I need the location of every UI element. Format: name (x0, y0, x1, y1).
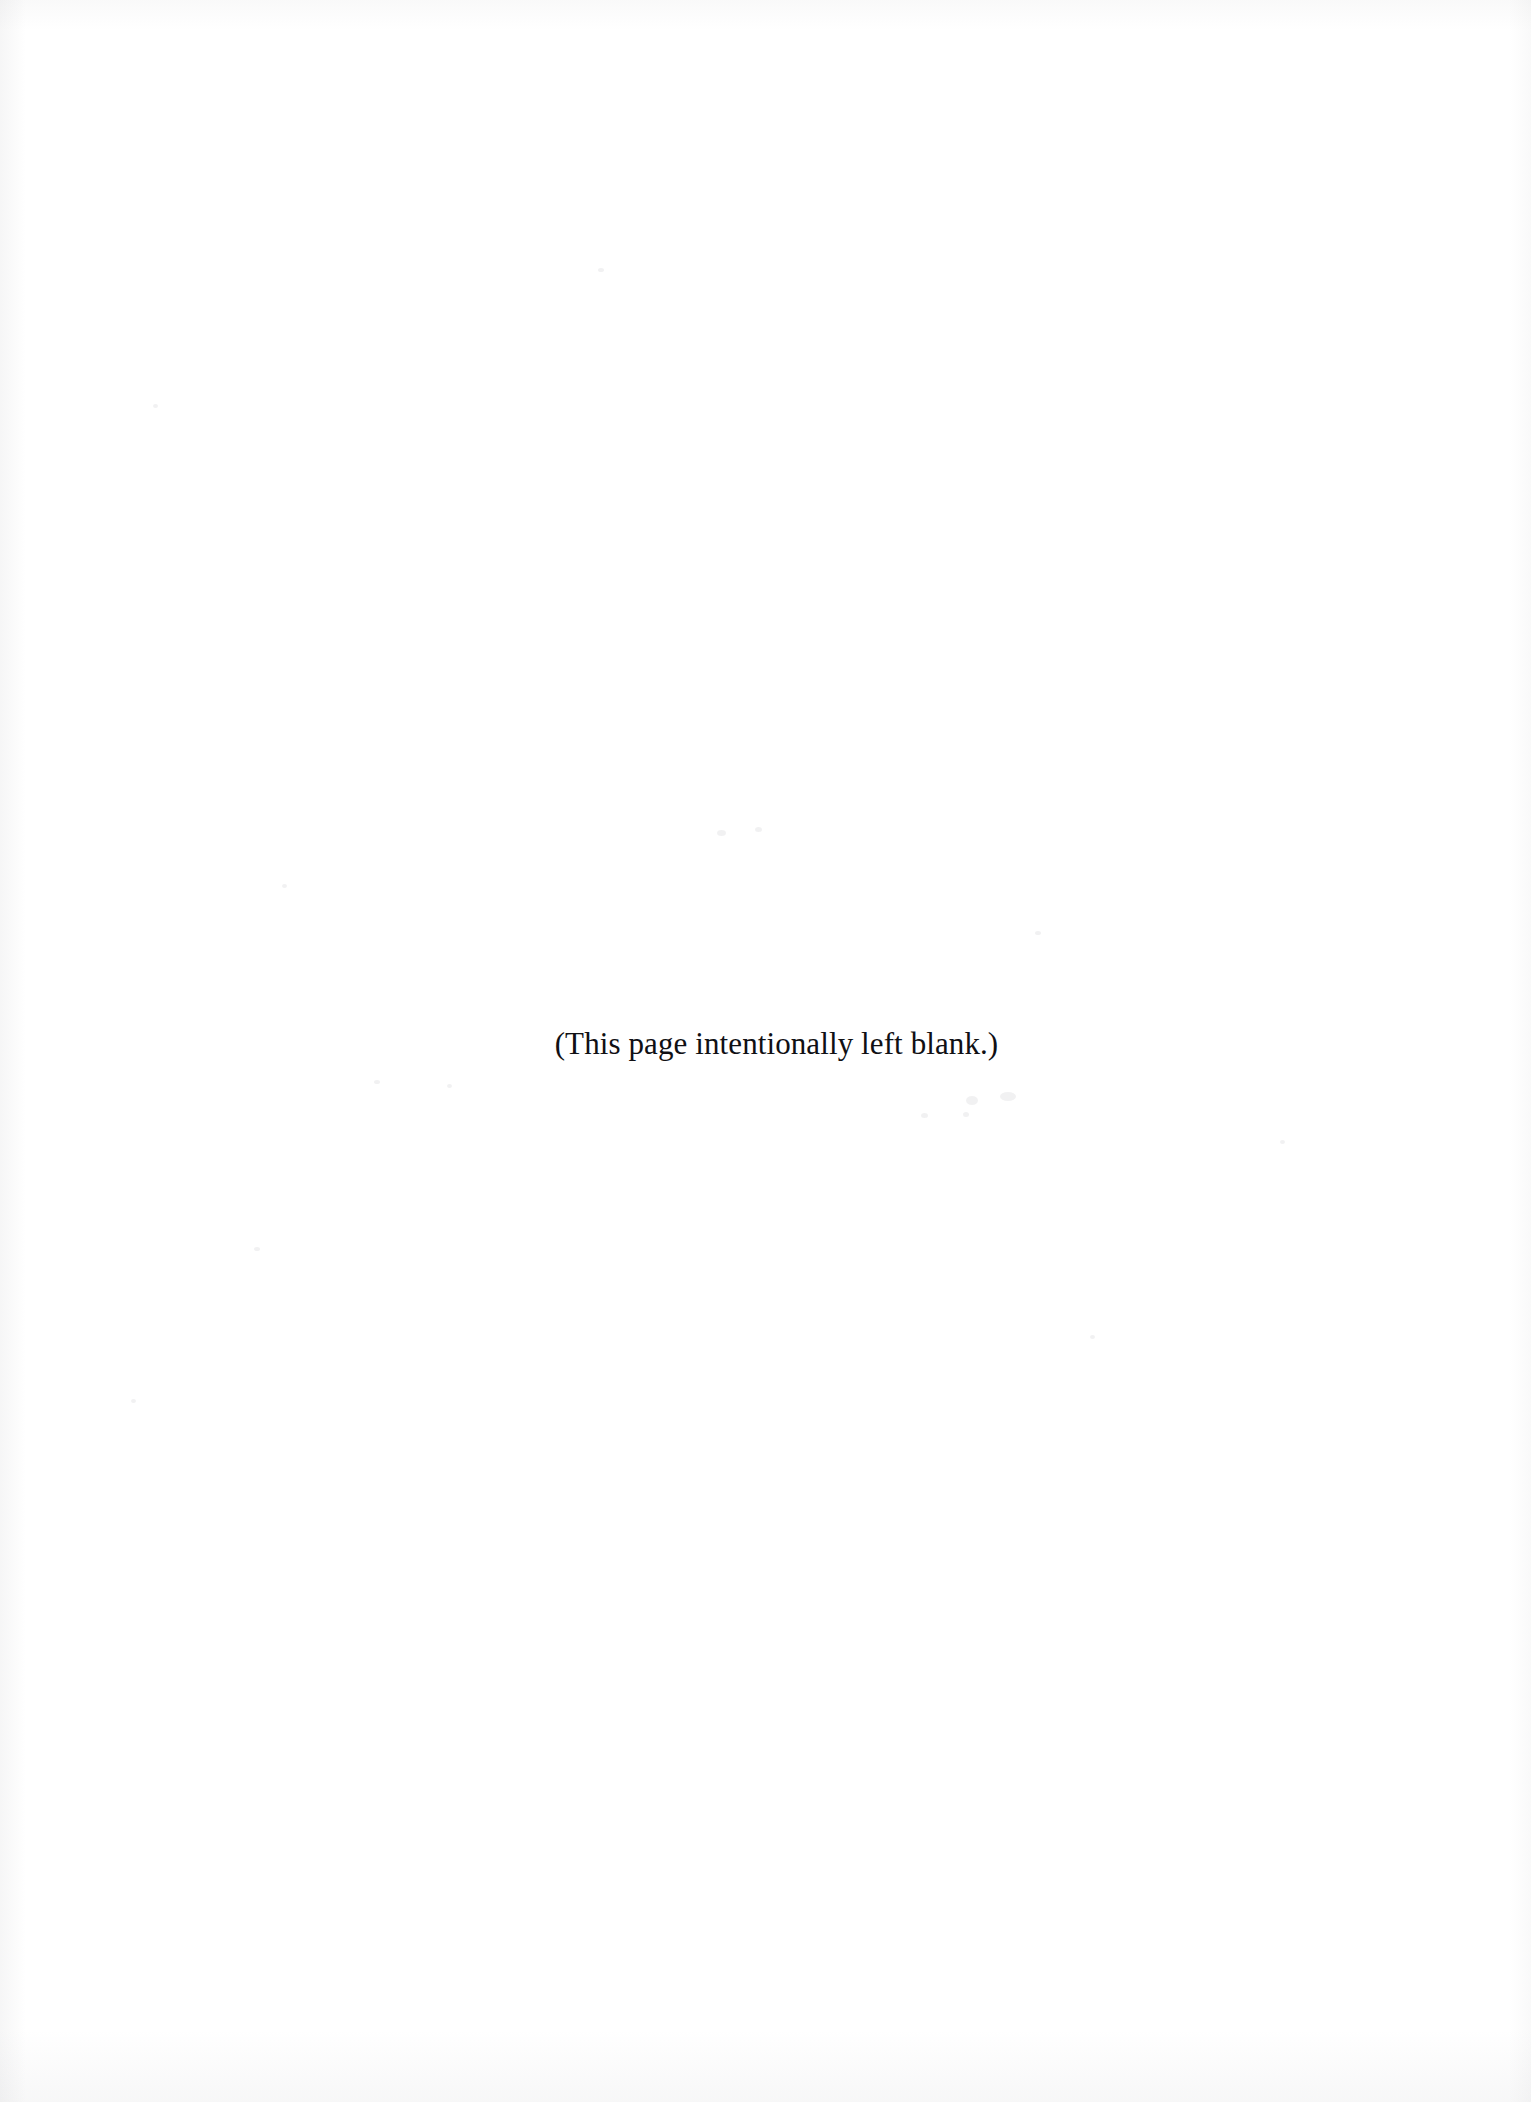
scan-speckle (153, 404, 158, 408)
scan-edge-shadow-bottom (0, 2030, 1531, 2102)
scan-speckle (755, 827, 762, 832)
scan-speckle (717, 830, 726, 836)
scan-speckle (131, 1399, 136, 1403)
scan-speckle (447, 1084, 452, 1088)
scan-speckle (1000, 1092, 1016, 1101)
scan-speckle (1035, 931, 1041, 935)
scan-speckle (1090, 1335, 1095, 1339)
scan-speckle (374, 1080, 380, 1084)
document-page: (This page intentionally left blank.) (0, 0, 1531, 2102)
scan-speckle (1280, 1140, 1285, 1144)
page-intentionally-blank-notice: (This page intentionally left blank.) (0, 1024, 1531, 1064)
scan-speckle (598, 268, 604, 272)
scan-speckle (282, 884, 287, 888)
scan-speckle (963, 1112, 969, 1117)
scan-speckle (966, 1096, 978, 1105)
scan-speckle (921, 1113, 928, 1118)
scan-edge-shadow-top (0, 0, 1531, 30)
scan-speckle (254, 1247, 260, 1251)
